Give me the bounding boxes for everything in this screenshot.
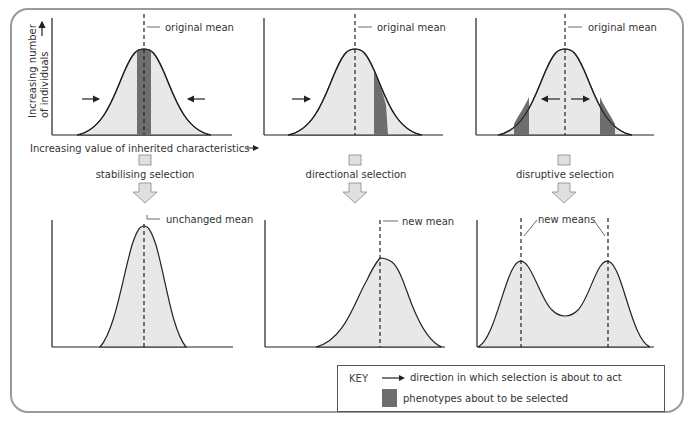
legend-key: KEY direction in which selection is abou…: [337, 365, 665, 412]
panel-disruptive-after: new means: [477, 214, 654, 347]
box-icon: [558, 155, 570, 165]
box-icon: [139, 155, 151, 165]
arrow-right-icon: [382, 374, 406, 382]
svg-text:of individuals: of individuals: [39, 51, 50, 118]
transition-stabilising: stabilising selection: [96, 155, 195, 203]
key-row-arrow: direction in which selection is about to…: [382, 372, 622, 383]
svg-text:new means: new means: [538, 214, 595, 225]
svg-text:Increasing number: Increasing number: [27, 23, 38, 118]
panel-stabilising-before: original mean: [52, 14, 234, 135]
svg-text:original mean: original mean: [377, 22, 446, 33]
svg-text:original mean: original mean: [165, 22, 234, 33]
panel-disruptive-before: original mean: [476, 14, 657, 135]
key-swatch-text: phenotypes about to be selected: [403, 393, 568, 404]
y-axis-label: Increasing number of individuals: [27, 22, 50, 118]
box-icon: [349, 155, 361, 165]
selection-diagram: Increasing number of individuals origina…: [0, 0, 691, 425]
down-arrow-icon: [133, 183, 157, 203]
panel-stabilising-after: unchanged mean: [52, 214, 253, 347]
down-arrow-icon: [343, 183, 367, 203]
svg-text:disruptive selection: disruptive selection: [516, 169, 614, 180]
key-title: KEY: [349, 373, 368, 384]
key-row-swatch: phenotypes about to be selected: [382, 389, 568, 407]
down-arrow-icon: [552, 183, 576, 203]
x-axis-label: Increasing value of inherited characteri…: [30, 143, 250, 154]
panel-directional-before: original mean: [264, 14, 446, 135]
panel-directional-after: new mean: [265, 216, 454, 347]
svg-text:new mean: new mean: [402, 216, 454, 227]
transition-disruptive: disruptive selection: [516, 155, 614, 203]
transition-directional: directional selection: [306, 155, 407, 203]
svg-text:directional selection: directional selection: [306, 169, 407, 180]
svg-text:stabilising selection: stabilising selection: [96, 169, 195, 180]
svg-text:original mean: original mean: [588, 22, 657, 33]
key-arrow-text: direction in which selection is about to…: [410, 372, 622, 383]
svg-text:unchanged mean: unchanged mean: [166, 214, 253, 225]
swatch-icon: [382, 389, 397, 407]
